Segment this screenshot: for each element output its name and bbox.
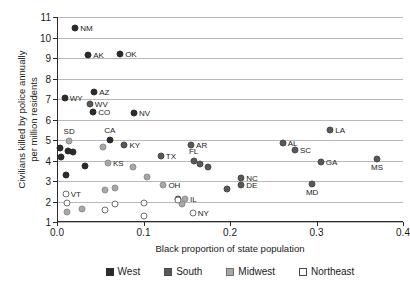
legend-swatch-icon <box>164 268 172 276</box>
data-point-label-wy: WY <box>70 93 83 102</box>
data-point-label-sd: SD <box>64 127 75 136</box>
data-point-ms <box>374 156 381 163</box>
data-point-label-wv: WV <box>95 100 108 109</box>
data-point <box>205 163 212 170</box>
data-point-label-vt: VT <box>71 190 81 199</box>
x-tick-label: 0.2 <box>223 227 237 238</box>
data-point-label-ky: KY <box>129 141 140 150</box>
data-point <box>111 185 118 192</box>
y-tick-label: 2 <box>45 196 51 207</box>
data-point-sd <box>66 138 73 145</box>
data-point <box>141 199 148 206</box>
data-point <box>57 145 64 152</box>
data-point <box>175 197 182 204</box>
x-tick-mark <box>317 222 318 226</box>
data-point-ca <box>106 137 113 144</box>
x-tick-mark <box>403 222 404 226</box>
legend-label: Northeast <box>311 266 354 277</box>
data-point <box>223 186 230 193</box>
data-point <box>141 212 148 219</box>
data-point-nv <box>130 110 137 117</box>
y-tick-label: 3 <box>45 176 51 187</box>
data-point-md <box>309 181 316 188</box>
data-point <box>79 205 86 212</box>
data-point <box>102 206 109 213</box>
y-tick-label: 8 <box>45 73 51 84</box>
data-point-label-la: LA <box>335 125 345 134</box>
data-point-sc <box>291 147 298 154</box>
data-point <box>196 160 203 167</box>
x-tick-label: 0.0 <box>50 227 64 238</box>
data-point-vt <box>62 191 69 198</box>
legend-label: West <box>118 266 141 277</box>
y-tick-label: 1 <box>45 217 51 228</box>
gridline <box>57 38 403 39</box>
data-point-label-md: MD <box>306 188 318 197</box>
data-point-ky <box>121 142 128 149</box>
data-point <box>58 154 65 161</box>
data-point-label-ks: KS <box>113 158 124 167</box>
legend-label: South <box>176 266 202 277</box>
data-point-label-co: CO <box>98 108 110 117</box>
data-point <box>69 148 76 155</box>
legend-swatch-icon <box>226 268 234 276</box>
x-tick-label: 0.3 <box>310 227 324 238</box>
data-point-ok <box>117 50 124 57</box>
data-point-label-de: DE <box>246 181 257 190</box>
data-point-co <box>90 109 97 116</box>
data-point-label-oh: OH <box>168 181 180 190</box>
legend-swatch-icon <box>299 268 307 276</box>
y-tick-label: 9 <box>45 53 51 64</box>
y-tick-label: 5 <box>45 135 51 146</box>
legend-item-midwest[interactable]: Midwest <box>226 266 275 277</box>
data-point <box>111 200 118 207</box>
x-tick-mark <box>144 222 145 226</box>
data-point-de <box>238 182 245 189</box>
data-point <box>99 144 106 151</box>
data-point-wv <box>86 101 93 108</box>
y-axis-label: Civilians killed by police annually per … <box>16 5 39 235</box>
data-point-tx <box>157 153 164 160</box>
data-point-ga <box>317 158 324 165</box>
x-tick-label: 0.1 <box>137 227 151 238</box>
data-point-label-nv: NV <box>139 109 150 118</box>
data-point-label-fl: FL <box>189 147 198 156</box>
data-point-label-sc: SC <box>300 146 311 155</box>
data-point-la <box>327 126 334 133</box>
data-point-label-ca: CA <box>104 126 115 135</box>
data-point-label-tx: TX <box>166 152 176 161</box>
legend-item-west[interactable]: West <box>106 266 141 277</box>
data-point <box>101 187 108 194</box>
y-tick-label: 7 <box>45 94 51 105</box>
x-tick-mark <box>57 222 58 226</box>
x-tick-mark <box>230 222 231 226</box>
data-point-label-ms: MS <box>371 163 383 172</box>
y-tick-label: 6 <box>45 114 51 125</box>
data-point-label-il: IL <box>190 195 197 204</box>
x-axis-line <box>57 221 403 222</box>
data-point <box>143 174 150 181</box>
data-point <box>130 163 137 170</box>
data-point <box>62 172 69 179</box>
data-point-ny <box>189 209 196 216</box>
chart-legend: WestSouthMidwestNortheast <box>57 266 403 277</box>
y-tick-label: 4 <box>45 155 51 166</box>
legend-item-south[interactable]: South <box>164 266 202 277</box>
gridline <box>57 181 403 182</box>
legend-swatch-icon <box>106 268 114 276</box>
data-point <box>81 162 88 169</box>
data-point <box>64 208 71 215</box>
data-point-az <box>91 88 98 95</box>
data-point <box>63 200 70 207</box>
plot-area: 1234567891011 0.00.10.20.30.4 NMAKOKAZWY… <box>57 17 403 222</box>
gridline <box>57 79 403 80</box>
gridline <box>57 99 403 100</box>
y-tick-label: 10 <box>40 32 51 43</box>
x-tick-label: 0.4 <box>396 227 410 238</box>
legend-item-northeast[interactable]: Northeast <box>299 266 354 277</box>
gridline <box>57 17 403 18</box>
data-point-ks <box>105 159 112 166</box>
data-point-nm <box>72 25 79 32</box>
data-point-label-ga: GA <box>326 157 338 166</box>
